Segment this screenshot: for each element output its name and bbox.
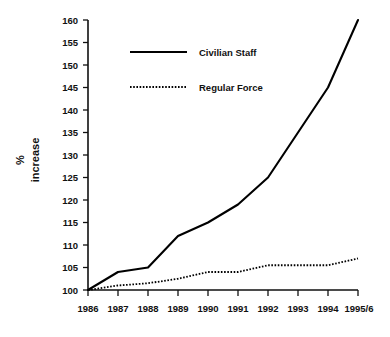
x-tick-label: 1989 [167,303,188,314]
x-axis-tick-labels: 1986 1987 1988 1989 1990 1991 1992 1993 … [77,303,373,314]
y-tick-label: 160 [62,15,78,26]
y-tick-label: 130 [62,150,78,161]
x-tick-marks [88,290,358,296]
chart-container: 160 155 150 145 140 135 130 125 120 115 … [0,0,390,337]
y-axis-title-line1: % [14,155,26,165]
series-civilian-staff [88,20,358,290]
legend-label-regular-force: Regular Force [199,82,263,93]
y-tick-label: 105 [62,262,79,273]
y-axis-title: % increase [14,138,41,183]
y-axis-tick-labels: 160 155 150 145 140 135 130 125 120 115 … [62,15,79,296]
x-tick-label: 1994 [317,303,339,314]
y-axis-title-line2: increase [29,138,41,183]
legend-label-civilian-staff: Civilian Staff [199,47,257,58]
y-tick-label: 100 [62,285,78,296]
x-tick-label: 1993 [287,303,308,314]
series-regular-force [88,259,358,291]
x-tick-label: 1995/6 [344,303,373,314]
axis-spines [88,20,358,290]
line-chart: 160 155 150 145 140 135 130 125 120 115 … [0,0,390,337]
y-tick-label: 115 [63,217,79,228]
y-tick-label: 140 [62,105,78,116]
y-tick-label: 135 [62,127,79,138]
y-tick-label: 110 [63,240,78,251]
x-tick-label: 1990 [197,303,218,314]
chart-legend: Civilian Staff Regular Force [130,47,263,93]
x-tick-label: 1988 [137,303,158,314]
y-tick-label: 155 [62,37,79,48]
y-tick-label: 125 [62,172,79,183]
y-tick-label: 150 [62,60,78,71]
x-tick-label: 1987 [107,303,128,314]
x-tick-label: 1991 [227,303,249,314]
x-tick-label: 1986 [77,303,98,314]
y-tick-label: 120 [62,195,78,206]
y-tick-label: 145 [62,82,79,93]
x-tick-label: 1992 [257,303,278,314]
axis-lines [83,20,358,290]
